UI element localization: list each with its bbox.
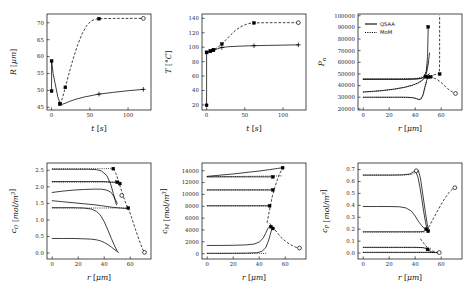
data-marker (253, 22, 256, 25)
y-tick-label: 50000 (338, 71, 356, 77)
y-tick-label: 65 (37, 37, 44, 43)
data-marker (271, 227, 274, 230)
data-marker (205, 51, 208, 54)
x-tick-label: 40 (101, 261, 108, 267)
data-marker (97, 92, 101, 96)
y-tick-label: 4000 (185, 227, 199, 233)
data-marker (414, 169, 418, 173)
plot-frame (47, 163, 151, 259)
y-tick-label: 100000 (334, 13, 355, 19)
y-tick-label: 0.2 (346, 226, 355, 232)
x-tick-label: 40 (412, 112, 419, 118)
y-axis-label: cO [mol/m3] (8, 189, 20, 233)
x-axis-label: r [μm] (87, 273, 111, 282)
data-curve (363, 74, 429, 92)
y-tick-label: 0.4 (346, 202, 355, 208)
data-marker (454, 92, 458, 96)
y-tick-label: 0.3 (346, 214, 355, 220)
data-marker (209, 50, 212, 53)
x-tick-label: 20 (230, 261, 237, 267)
x-tick-label: 20 (386, 261, 393, 267)
x-tick-label: 50 (86, 112, 93, 118)
y-tick-label: 20000 (338, 106, 356, 112)
data-curve (430, 15, 440, 77)
data-curve (420, 239, 439, 253)
y-tick-label: 45 (37, 104, 44, 110)
y-tick-label: 0.1 (346, 238, 355, 244)
y-tick-label: 8000 (185, 203, 199, 209)
data-curve (363, 53, 429, 79)
data-curve (363, 77, 429, 100)
data-curve (363, 247, 433, 252)
x-tick-label: 100 (278, 112, 289, 118)
y-tick-label: 80 (192, 59, 199, 65)
x-tick-label: 0 (361, 261, 365, 267)
data-marker (427, 25, 430, 28)
plot-frame (358, 163, 462, 259)
data-marker (220, 46, 224, 50)
y-tick-label: 20 (192, 102, 199, 108)
data-marker (212, 48, 215, 51)
data-curve (430, 77, 456, 94)
y-tick-label: 60000 (338, 59, 356, 65)
y-tick-label: 0.0 (35, 250, 44, 256)
x-tick-label: 100 (123, 112, 134, 118)
data-curve (207, 45, 299, 105)
data-marker (118, 182, 121, 185)
x-tick-label: 60 (438, 112, 445, 118)
y-tick-label: 0.7 (346, 166, 355, 172)
legend-label-qsaa: QSAA (380, 21, 395, 27)
y-tick-label: 55 (37, 70, 44, 76)
data-marker (296, 21, 300, 25)
x-tick-label: 40 (412, 261, 419, 267)
data-curve (60, 18, 143, 104)
y-tick-label: 1.0 (35, 217, 44, 223)
x-axis-label: r [μm] (242, 273, 266, 282)
y-tick-label: 0 (195, 251, 199, 257)
y-tick-label: 12000 (182, 179, 200, 185)
data-curve (426, 188, 455, 231)
data-curve (52, 189, 117, 203)
x-tick-label: 40 (256, 261, 263, 267)
y-tick-label: 90000 (338, 24, 356, 30)
x-tick-label: 60 (438, 261, 445, 267)
x-tick-label: 0 (50, 261, 54, 267)
y-tick-label: 0.0 (346, 250, 355, 256)
data-marker (64, 86, 67, 89)
y-axis-label: R [μm] (9, 49, 18, 76)
y-tick-label: 70 (37, 20, 44, 26)
data-curve (363, 61, 428, 79)
data-marker (59, 103, 62, 106)
y-tick-label: 30000 (338, 94, 356, 100)
data-marker (120, 194, 124, 198)
y-tick-label: 40000 (338, 82, 356, 88)
data-curve (416, 172, 428, 232)
x-axis-label: t [s] (91, 124, 106, 133)
data-curve (207, 168, 282, 177)
data-curve (52, 61, 144, 104)
y-tick-label: 2.0 (35, 184, 44, 190)
data-curve (128, 208, 144, 252)
data-marker (296, 43, 300, 47)
y-tick-label: 120 (189, 30, 200, 36)
y-tick-label: 60 (192, 73, 199, 79)
y-tick-label: 140 (189, 15, 200, 21)
x-tick-label: 0 (205, 112, 209, 118)
y-tick-label: 6000 (185, 215, 199, 221)
y-tick-label: 14000 (182, 168, 200, 174)
y-tick-label: 70000 (338, 48, 356, 54)
x-tick-label: 20 (386, 112, 393, 118)
data-curve (207, 228, 273, 253)
x-axis-label: r [μm] (398, 273, 422, 282)
y-axis-label: cM [mol/m3] (159, 188, 171, 234)
y-tick-label: 1.5 (35, 200, 44, 206)
x-axis-label: r [μm] (398, 124, 422, 133)
y-axis-label: T [°C] (164, 50, 173, 73)
plot-frame (202, 14, 306, 110)
data-marker (50, 90, 53, 93)
data-curve (52, 238, 118, 252)
data-curve (52, 169, 116, 205)
data-marker (438, 73, 441, 76)
data-marker (437, 251, 441, 255)
data-marker (98, 17, 101, 20)
